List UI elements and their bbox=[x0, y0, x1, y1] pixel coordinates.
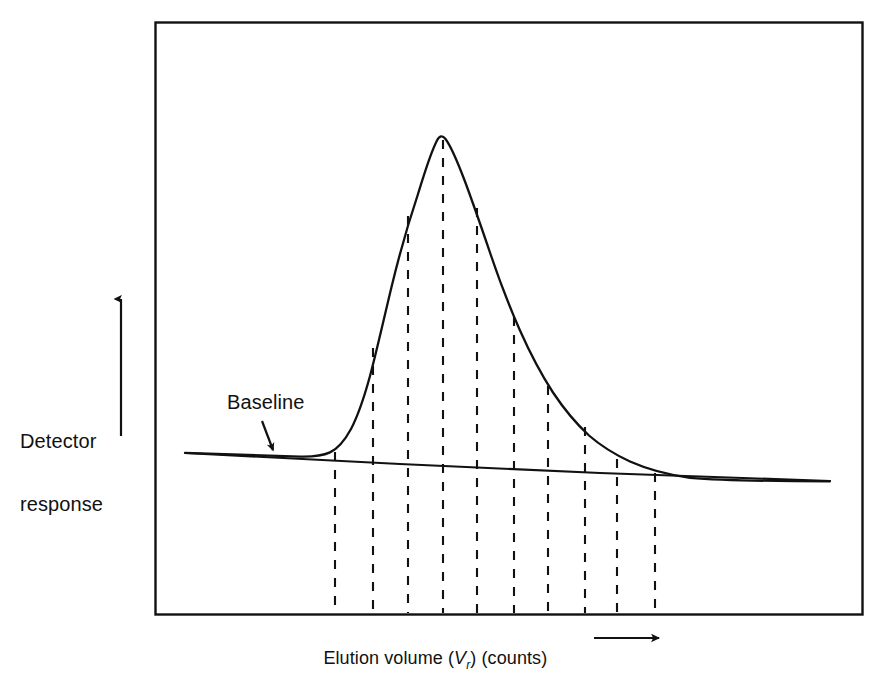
plot-frame bbox=[156, 23, 863, 615]
y-axis-label-line2: response bbox=[20, 494, 140, 515]
slice-lines-group bbox=[335, 140, 655, 613]
baseline-annotation-label: Baseline bbox=[227, 392, 305, 413]
baseline-pointer-icon bbox=[262, 421, 273, 450]
baseline-curve bbox=[185, 453, 830, 481]
x-axis-label: Elution volume (Vr) (counts) bbox=[303, 627, 547, 673]
x-axis-label-prefix: Elution volume ( bbox=[323, 648, 454, 668]
x-axis-symbol-letter: V bbox=[454, 648, 466, 668]
y-axis-label-line1: Detector bbox=[20, 431, 140, 452]
y-axis-label: Detector response bbox=[20, 389, 140, 557]
detector-response-curve bbox=[185, 136, 830, 481]
x-axis-symbol-vr: Vr bbox=[454, 648, 470, 668]
x-axis-label-suffix: ) (counts) bbox=[470, 648, 547, 668]
